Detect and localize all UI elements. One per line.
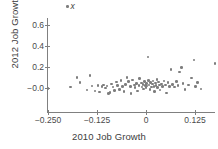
data-point [175,80,178,83]
data-point [109,91,112,94]
data-point [69,86,72,89]
data-point [140,82,143,85]
data-point [165,92,168,95]
data-point [98,91,101,94]
data-point [115,81,118,84]
data-point [135,82,138,85]
annotation-dot-icon [66,5,69,8]
data-point [89,74,92,77]
data-point [171,83,174,86]
data-point [167,81,170,84]
data-point [146,85,149,88]
x-tick-label: −0.250 [35,116,61,125]
data-point [106,85,109,88]
data-point [180,66,183,69]
data-point [147,79,150,82]
y-axis-line [47,18,48,113]
data-point [79,81,82,84]
y-tick-label: 0.4 [32,42,44,51]
data-point [148,84,151,87]
data-point [157,81,160,84]
data-point [163,80,166,83]
data-point [196,81,199,84]
data-point [142,83,145,86]
data-point [130,92,133,95]
data-point [200,88,203,91]
data-point [164,84,167,87]
data-point [158,84,161,87]
data-point [145,86,148,89]
x-tick-label: 0.125 [184,116,205,125]
data-point [136,90,139,93]
data-point [97,84,100,87]
data-point [138,84,141,87]
data-point [133,84,136,87]
data-point [149,88,152,91]
data-point [124,83,127,86]
data-point [86,89,89,92]
data-point [170,68,173,71]
y-tick-label: −0.0 [27,84,44,93]
data-point [91,85,94,88]
y-axis-label: 2012 Job Growth [9,0,20,82]
data-point [177,84,180,87]
y-tick-mark [45,88,50,89]
x-tick-label: 0 [144,116,149,125]
data-point [123,90,126,93]
data-point [129,85,132,88]
data-point [168,85,171,88]
data-point [156,78,159,81]
data-point [184,88,187,91]
data-point [178,71,181,74]
data-point [145,82,148,85]
data-point [94,90,97,93]
annotation-label: x [71,2,75,11]
data-point [160,83,163,86]
plot-annotation: x [66,2,75,11]
data-point [107,92,110,95]
x-axis-label: 2010 Job Growth [0,131,218,142]
y-tick-label: 0.6 [32,21,44,30]
data-point [187,84,190,87]
data-point [149,81,152,84]
data-point [113,89,116,92]
y-tick-mark [45,25,50,26]
data-point [101,85,104,88]
data-point [126,76,129,79]
data-point [143,80,146,83]
data-point [102,84,105,87]
y-tick-label: 0.2 [32,63,44,72]
scatter-plot-figure: x 0.60.40.2−0.0 −0.250−0.12500.125 2010 … [0,0,218,149]
data-point [127,80,130,83]
data-point [138,77,141,80]
x-axis-line [47,112,215,113]
data-point [104,87,107,90]
data-point [151,83,154,86]
data-point [131,79,134,82]
data-point [153,90,156,93]
data-point [156,86,159,89]
data-point [142,88,145,91]
data-point [141,86,144,89]
data-point [214,62,217,65]
data-point [112,86,115,89]
data-point [120,79,123,82]
data-point [159,89,162,92]
data-point [155,84,158,87]
data-point [144,84,147,87]
data-point [182,82,185,85]
data-point [116,84,119,87]
data-point [194,85,197,88]
data-point [110,83,113,86]
x-tick-label: −0.125 [84,116,110,125]
data-point [154,82,157,85]
data-point [173,86,176,89]
data-point [161,85,164,88]
data-point [147,56,150,59]
data-point [153,85,156,88]
data-point [190,77,193,80]
y-tick-mark [45,46,50,47]
data-point [76,76,79,79]
y-tick-mark [45,67,50,68]
data-point [152,80,155,83]
